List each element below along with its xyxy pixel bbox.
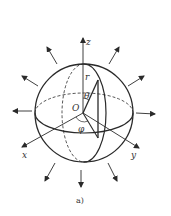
radial-arrows	[13, 47, 155, 187]
arrow-right	[136, 113, 155, 114]
radius-label: r	[85, 72, 90, 82]
meridian-back	[62, 64, 84, 162]
arrow-up-left	[47, 47, 57, 64]
arrow-left-upper	[22, 76, 38, 86]
y-axis-label: y	[130, 150, 137, 160]
arrow-down-right	[108, 163, 117, 181]
phi-label: φ	[78, 124, 85, 134]
figure-caption: a)	[76, 196, 84, 205]
sphere-outline	[35, 64, 133, 162]
x-axis	[22, 113, 83, 147]
arrow-down-left	[45, 163, 55, 181]
theta-label: θ	[84, 91, 90, 101]
origin-label: O	[72, 103, 80, 113]
spherical-coordinates-diagram: z r θ O φ x y a)	[0, 0, 171, 216]
z-axis-label: z	[85, 37, 91, 47]
arrow-right-upper	[128, 76, 144, 86]
arrow-up-right	[109, 47, 119, 64]
x-axis-label: x	[22, 150, 27, 160]
projection-base	[83, 113, 98, 138]
y-axis	[83, 113, 139, 148]
